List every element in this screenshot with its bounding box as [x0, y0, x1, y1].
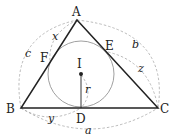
label-e: E — [105, 39, 114, 53]
length-label-z: z — [137, 62, 144, 75]
length-label-a: a — [85, 124, 92, 137]
length-label-c: c — [25, 47, 31, 60]
label-b: B — [6, 102, 15, 116]
label-i: I — [77, 57, 82, 71]
length-label-x: x — [52, 30, 59, 43]
label-c: C — [160, 102, 169, 116]
length-label-b: b — [132, 38, 139, 51]
incenter-dot — [79, 72, 83, 76]
incircle-diagram: A B C D E F I a b c x y z r — [0, 0, 182, 139]
label-a: A — [71, 5, 81, 19]
length-label-y: y — [47, 112, 55, 125]
length-label-r: r — [85, 83, 91, 96]
label-f: F — [40, 51, 48, 65]
